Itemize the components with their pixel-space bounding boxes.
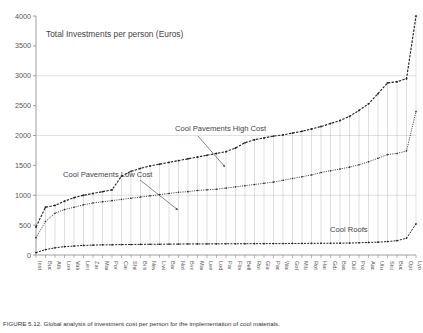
svg-text:Lodz: Lodz [218,261,224,270]
svg-text:Aachen: Aachen [370,261,376,270]
svg-text:Rotterdam: Rotterdam [313,261,319,270]
svg-text:Belfast: Belfast [246,261,252,270]
svg-text:Lyon: Lyon [417,261,423,270]
svg-text:Florence: Florence [237,261,243,270]
svg-text:Basel: Basel [341,261,347,270]
svg-text:Madrid: Madrid [104,261,110,270]
svg-text:Rome: Rome [256,261,262,270]
svg-text:Utrecht: Utrecht [379,261,385,270]
svg-text:500: 500 [19,221,31,230]
figure-caption: FIGURE 5.12. Global analysis of investme… [3,320,280,327]
svg-text:Dublin: Dublin [351,261,357,270]
svg-text:Strasbourg: Strasbourg [389,261,395,270]
svg-text:Hamburg: Hamburg [322,261,328,270]
svg-text:Barcelona: Barcelona [170,261,176,270]
svg-text:Cool Pavements Low Cost: Cool Pavements Low Cost [63,170,153,179]
svg-text:Total Investments per person (: Total Investments per person (Euros) [46,29,184,39]
svg-text:Birmingham: Birmingham [189,261,195,270]
svg-text:Instabul: Instabul [37,261,43,270]
svg-text:Paris: Paris [227,261,233,270]
svg-text:Zaragosa: Zaragosa [94,261,100,270]
svg-text:Leeds: Leeds [208,261,214,270]
svg-text:Athens: Athens [56,261,62,270]
svg-text:Cool Roofs: Cool Roofs [330,225,368,234]
svg-text:Poznan: Poznan [360,261,366,270]
svg-text:4000: 4000 [15,12,31,21]
svg-text:Bucharest: Bucharest [47,261,53,270]
svg-text:Gdansk: Gdansk [332,261,338,270]
svg-text:Cool Pavements High Cost: Cool Pavements High Cost [175,124,267,133]
chart-plot-area: 05001000150020002500300035004000Total In… [0,0,423,270]
svg-text:3500: 3500 [15,41,31,50]
svg-text:Budapest: Budapest [398,261,404,270]
svg-text:Nottingham: Nottingham [180,261,186,270]
svg-text:1000: 1000 [15,191,31,200]
svg-text:Cardiff: Cardiff [123,261,129,270]
svg-text:Glasgow: Glasgow [265,261,271,270]
svg-text:Sheffield: Sheffield [132,261,138,270]
svg-text:2000: 2000 [15,131,31,140]
svg-text:Oporto: Oporto [408,261,414,270]
svg-text:Manchester: Manchester [199,261,205,270]
svg-text:Newcastle: Newcastle [151,261,157,270]
svg-text:1500: 1500 [15,161,31,170]
svg-text:3000: 3000 [15,71,31,80]
svg-text:Warsaw: Warsaw [284,261,290,270]
svg-text:Valencia: Valencia [75,261,81,270]
svg-text:Milan: Milan [303,261,309,270]
svg-text:London: London [66,261,72,270]
svg-text:Gothenburg: Gothenburg [294,261,300,270]
svg-text:0: 0 [27,251,31,260]
svg-text:Portsmouth: Portsmouth [113,261,119,270]
svg-text:2500: 2500 [15,101,31,110]
investment-line-chart: 05001000150020002500300035004000Total In… [0,0,423,270]
figure-container: 05001000150020002500300035004000Total In… [0,0,423,333]
svg-text:Liverpool: Liverpool [161,261,167,270]
svg-text:Padua: Padua [275,261,281,270]
svg-text:Leicester: Leicester [85,261,91,270]
svg-text:Bristol: Bristol [142,261,148,270]
